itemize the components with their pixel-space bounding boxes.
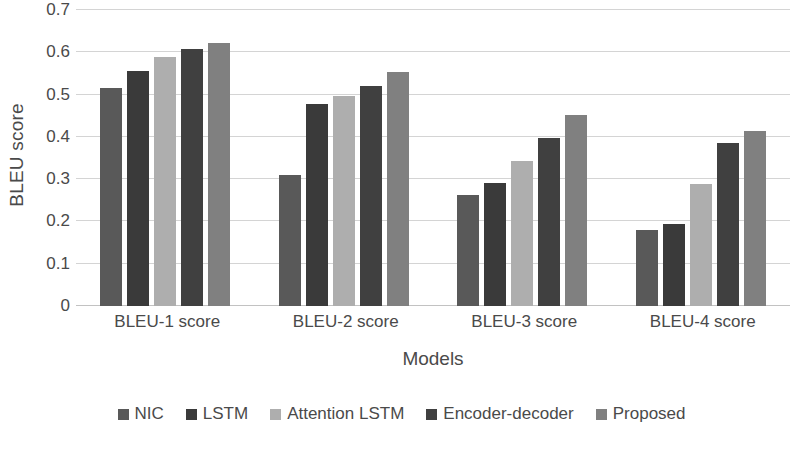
bar[interactable] <box>538 138 560 306</box>
legend-label: Proposed <box>613 404 686 424</box>
bar[interactable] <box>511 161 533 306</box>
bar[interactable] <box>484 183 506 306</box>
x-axis-tick-labels: BLEU-1 scoreBLEU-2 scoreBLEU-3 scoreBLEU… <box>76 312 790 332</box>
legend-swatch-icon <box>186 409 197 420</box>
x-axis-tick-label: BLEU-1 score <box>76 312 255 332</box>
legend-item[interactable]: LSTM <box>186 404 248 424</box>
legend-label: LSTM <box>203 404 248 424</box>
x-axis-tick-label: BLEU-2 score <box>255 312 434 332</box>
y-axis-tick-label: 0 <box>61 296 70 316</box>
x-axis-tick-label: BLEU-3 score <box>433 312 612 332</box>
bar[interactable] <box>181 49 203 306</box>
bar[interactable] <box>100 88 122 306</box>
legend-item[interactable]: Proposed <box>596 404 686 424</box>
bar-groups <box>76 10 790 306</box>
y-axis-tick-label: 0.2 <box>46 211 70 231</box>
bar[interactable] <box>457 195 479 306</box>
y-axis-tick-labels: 00.10.20.30.40.50.60.7 <box>30 10 74 306</box>
y-axis-tick-label: 0.4 <box>46 127 70 147</box>
y-axis-title-label: BLEU score <box>6 103 28 206</box>
x-axis-title: Models <box>76 348 790 370</box>
bar[interactable] <box>279 175 301 306</box>
legend-swatch-icon <box>596 409 607 420</box>
bar[interactable] <box>154 57 176 306</box>
bar-group <box>612 10 791 306</box>
bar[interactable] <box>360 86 382 306</box>
bleu-score-bar-chart: BLEU score 00.10.20.30.40.50.60.7 BLEU-1… <box>0 0 803 453</box>
bar[interactable] <box>744 131 766 306</box>
y-axis-tick-label: 0.1 <box>46 254 70 274</box>
y-axis-tick-label: 0.5 <box>46 85 70 105</box>
legend-item[interactable]: Encoder-decoder <box>426 404 573 424</box>
bar[interactable] <box>127 71 149 306</box>
bar-group <box>433 10 612 306</box>
legend-label: Encoder-decoder <box>443 404 573 424</box>
bar[interactable] <box>306 104 328 306</box>
legend-label: NIC <box>135 404 164 424</box>
bar[interactable] <box>717 143 739 306</box>
bar[interactable] <box>690 184 712 306</box>
x-axis-tick-label: BLEU-4 score <box>612 312 791 332</box>
legend-item[interactable]: Attention LSTM <box>270 404 404 424</box>
plot-area <box>76 10 790 306</box>
bar-group <box>255 10 434 306</box>
legend-label: Attention LSTM <box>287 404 404 424</box>
bar[interactable] <box>333 96 355 306</box>
legend-swatch-icon <box>270 409 281 420</box>
y-axis-tick-label: 0.3 <box>46 169 70 189</box>
bar-group <box>76 10 255 306</box>
legend-swatch-icon <box>426 409 437 420</box>
y-axis-tick-label: 0.6 <box>46 42 70 62</box>
bar[interactable] <box>663 224 685 306</box>
y-axis-tick-label: 0.7 <box>46 0 70 20</box>
bar[interactable] <box>636 230 658 306</box>
legend-item[interactable]: NIC <box>118 404 164 424</box>
y-axis-title: BLEU score <box>0 0 34 310</box>
bar[interactable] <box>565 115 587 306</box>
legend: NICLSTMAttention LSTMEncoder-decoderProp… <box>0 404 803 424</box>
legend-swatch-icon <box>118 409 129 420</box>
bar[interactable] <box>208 43 230 306</box>
bar[interactable] <box>387 72 409 306</box>
